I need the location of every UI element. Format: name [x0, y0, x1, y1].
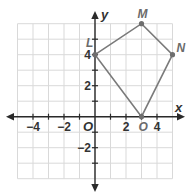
y-axis-up-arrow-icon: [91, 11, 98, 19]
y-axis-down-arrow-icon: [91, 184, 98, 192]
vertex-M-point: [139, 21, 144, 26]
origin-label: O: [83, 119, 93, 134]
x-axis-label: x: [174, 100, 183, 115]
x-tick-label: 4: [154, 120, 161, 134]
vertex-N-label: N: [177, 41, 186, 55]
y-tick-label: 2: [84, 79, 91, 93]
y-tick-label: −2: [77, 141, 91, 155]
vertex-O-point: [139, 114, 144, 119]
y-tick-label: 4: [84, 48, 91, 62]
x-tick-label: −2: [57, 120, 71, 134]
coordinate-plane: −4−22442−2 x y O LMNO: [0, 0, 192, 195]
x-tick-label: −4: [26, 120, 40, 134]
y-axis-label: y: [100, 7, 109, 22]
vertex-L-label: L: [86, 36, 93, 50]
vertex-M-label: M: [138, 7, 149, 21]
vertex-O-label: O: [139, 120, 149, 134]
vertex-N-point: [170, 52, 175, 57]
x-axis-left-arrow-icon: [6, 113, 14, 120]
x-tick-label: 2: [123, 120, 130, 134]
vertex-L-point: [92, 52, 97, 57]
